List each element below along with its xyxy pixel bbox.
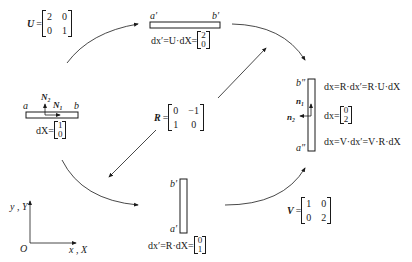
arrow-initial-to-R: [62, 160, 138, 205]
rotated-element-bar: [180, 179, 187, 233]
equation-final-dx: dx= 0 2: [324, 106, 352, 124]
label-n2: n₂: [287, 112, 295, 122]
vector-dx-prime-U: 2 0: [197, 31, 210, 49]
matrix-U-values: 2 0 0 1: [42, 10, 72, 37]
equation-dX: dX= 1 0: [36, 121, 66, 139]
label-N2: N₂: [41, 92, 51, 102]
arrow-R-to-bottom: [109, 130, 156, 177]
equation-final-RU: dx=R·dx′=R·U·dX: [324, 82, 400, 92]
label-b-prime-bottom: b′: [170, 179, 177, 189]
arrow-U-to-final: [232, 24, 305, 60]
matrix-V-values: 1 0 0 2: [301, 197, 331, 224]
arrow-R-to-top: [218, 48, 266, 98]
y-axis-label: y , Y: [10, 202, 28, 212]
diagram-canvas: U = 2 0 0 1 R = 0 −1 1 0 V = 1 0 0 2 a b…: [0, 0, 412, 262]
equation-dx-prime-U: dx′=U·dX= 2 0: [151, 31, 210, 49]
label-b: b: [74, 101, 79, 111]
label-a: a: [23, 101, 28, 111]
x-axis-label: x , X: [69, 245, 87, 255]
vector-dx-prime-R: 0 1: [194, 236, 207, 254]
vector-final-dx: 0 2: [340, 106, 353, 124]
label-a-prime-top: a′: [150, 11, 157, 21]
matrix-R-values: 0 −1 1 0: [168, 104, 204, 131]
final-element-bar: [308, 79, 315, 151]
stretched-element-bar: [150, 22, 220, 28]
label-b-prime-top: b′: [212, 11, 219, 21]
arrow-initial-to-U: [67, 24, 138, 63]
label-N1: N₁: [53, 100, 63, 110]
equation-final-VR: dx=V·dx′=V·R·dX: [324, 137, 401, 147]
label-n1: n₁: [296, 96, 304, 106]
matrix-R: R = 0 −1 1 0: [154, 104, 204, 131]
matrix-U: U = 2 0 0 1: [27, 10, 72, 37]
label-b-double-prime: b″: [296, 78, 305, 88]
origin-label: O: [20, 244, 27, 254]
label-a-double-prime: a″: [296, 143, 305, 153]
vector-dX: 1 0: [54, 121, 67, 139]
label-a-prime-bottom: a′: [170, 224, 177, 234]
equation-dx-prime-R: dx′=R·dX= 0 1: [148, 236, 206, 254]
matrix-V: V = 1 0 0 2: [287, 197, 331, 224]
